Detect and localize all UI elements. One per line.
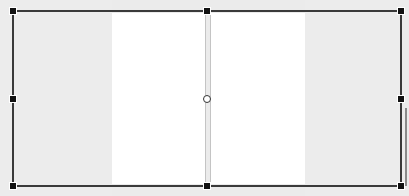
resize-handle-top-right[interactable]	[397, 7, 405, 15]
resize-handle-top-left[interactable]	[9, 7, 17, 15]
resize-handle-bottom-center[interactable]	[203, 182, 211, 190]
pasteboard-right	[305, 0, 409, 196]
resize-handle-top-center[interactable]	[203, 7, 211, 15]
left-page[interactable]	[112, 13, 205, 184]
resize-handle-bottom-left[interactable]	[9, 182, 17, 190]
right-page[interactable]	[211, 13, 305, 184]
scroll-indicator[interactable]	[405, 108, 407, 186]
resize-handle-bottom-right[interactable]	[397, 182, 405, 190]
rotation-center-icon[interactable]	[203, 95, 211, 103]
resize-handle-middle-left[interactable]	[9, 95, 17, 103]
resize-handle-middle-right[interactable]	[397, 95, 405, 103]
